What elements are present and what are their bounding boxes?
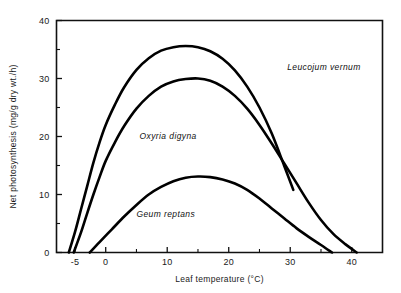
y-axis-ticks	[57, 21, 63, 253]
x-axis-tick-labels: -5010203040	[71, 257, 357, 267]
x-tick-label: 40	[347, 257, 357, 267]
y-axis-tick-labels: 010203040	[39, 16, 49, 258]
figure-container: -5010203040 010203040 Leucojum vernumOxy…	[0, 0, 401, 293]
x-tick-label: 20	[224, 257, 234, 267]
net-photosynthesis-chart: -5010203040 010203040 Leucojum vernumOxy…	[0, 0, 401, 293]
x-tick-label: -5	[71, 257, 79, 267]
y-tick-label: 20	[39, 132, 49, 142]
series-label-geum-reptans: Geum reptans	[136, 209, 195, 219]
x-tick-label: 0	[103, 257, 108, 267]
y-tick-label: 30	[39, 74, 49, 84]
series-label-oxyria-digyna: Oxyria digyna	[140, 131, 197, 141]
data-curves	[69, 46, 357, 252]
x-axis-ticks	[75, 247, 352, 253]
y-tick-label: 40	[39, 16, 49, 26]
y-axis-title: Net photosynthesis (mg/g dry wt./h)	[8, 64, 18, 208]
x-tick-label: 30	[285, 257, 295, 267]
series-annotations: Leucojum vernumOxyria digynaGeum reptans	[136, 62, 360, 219]
y-tick-label: 10	[39, 190, 49, 200]
x-axis-title: Leaf temperature (°C)	[175, 274, 264, 284]
series-label-leucojum-vernum: Leucojum vernum	[287, 62, 361, 72]
x-tick-label: 10	[162, 257, 172, 267]
curve-leucojum-vernum	[69, 46, 294, 252]
y-tick-label: 0	[44, 248, 49, 258]
curve-geum-reptans	[90, 176, 332, 252]
